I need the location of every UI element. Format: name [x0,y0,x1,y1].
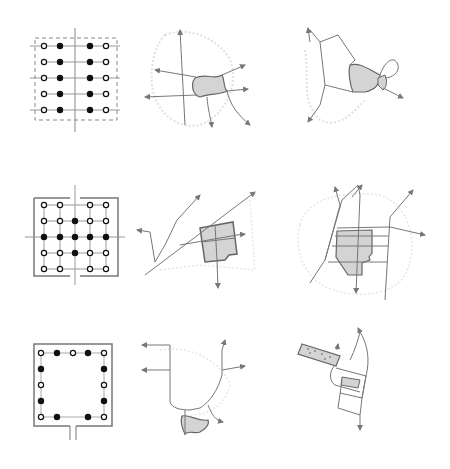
city-map-row2-a [125,170,275,310]
grid-plan-row3 [20,330,130,450]
grid-plan-row1 [20,20,130,140]
grid-plan-row2 [20,180,130,290]
city-map-row3-a [130,330,260,460]
city-map-row2-b [280,165,440,315]
city-map-row3-b [280,320,410,460]
city-map-row1-a [130,15,270,145]
city-map-row1-b [280,10,430,140]
